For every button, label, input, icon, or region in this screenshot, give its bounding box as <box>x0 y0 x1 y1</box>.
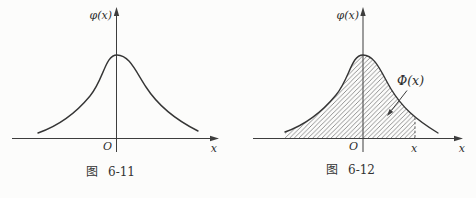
x-axis-arrowhead-icon <box>210 136 219 141</box>
y-axis-label: φ(x) <box>337 9 360 22</box>
textbook-figure-pair: φ(x) O x 图 6-11 φ(x) O x x Φ(x) 图 6-12 <box>0 0 476 198</box>
caption-number: 6-12 <box>348 163 375 177</box>
x-point-label: x <box>411 142 418 155</box>
y-axis-label: φ(x) <box>90 9 113 22</box>
density-curve <box>38 55 198 133</box>
figure-6-11: φ(x) O x 图 6-11 <box>12 7 219 179</box>
origin-label: O <box>103 140 112 153</box>
shaded-area <box>285 55 438 138</box>
cdf-label: Φ(x) <box>397 73 424 88</box>
origin-label: O <box>349 140 358 153</box>
diagram-canvas: φ(x) O x 图 6-11 φ(x) O x x Φ(x) 图 6-12 <box>0 0 476 198</box>
caption-number: 6-11 <box>108 165 135 179</box>
figure-6-12: φ(x) O x x Φ(x) 图 6-12 <box>253 7 466 177</box>
caption-prefix: 图 <box>86 165 98 179</box>
x-axis-label: x <box>211 142 218 155</box>
y-axis-arrowhead-icon <box>114 7 119 16</box>
x-axis-arrowhead-icon <box>454 136 463 141</box>
x-axis-label: x <box>459 142 466 155</box>
caption-prefix: 图 <box>326 163 338 177</box>
y-axis-arrowhead-icon <box>360 7 365 16</box>
